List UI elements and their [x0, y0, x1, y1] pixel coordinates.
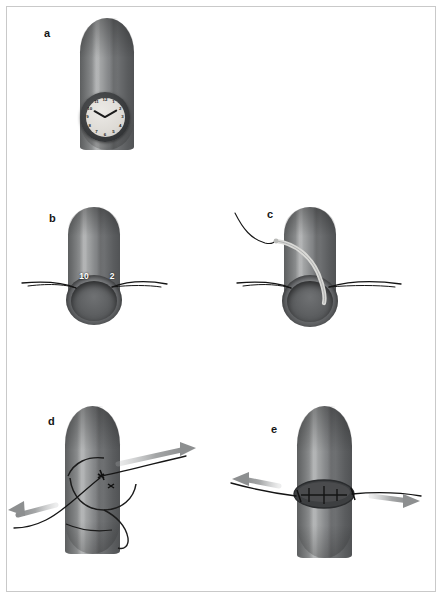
- panel-c: c: [221, 199, 442, 398]
- suture-thread: [235, 213, 275, 244]
- clock-numeral-1: 1: [112, 100, 114, 104]
- suture-loop-tail: [104, 510, 128, 549]
- arrow-right: [371, 494, 420, 508]
- needle-swage: [274, 239, 279, 244]
- clock-center-pin: [104, 116, 106, 118]
- clock-numeral-11: 11: [94, 100, 99, 104]
- figure-canvas: a 12 1 2 3 4 5 6 7 8 9 10 11: [0, 0, 442, 598]
- knot-lower: [108, 484, 114, 488]
- clock-numeral-5: 5: [112, 130, 114, 134]
- stay-suture-right-tail: [329, 286, 395, 288]
- position-marker-2: 2: [110, 271, 115, 281]
- stay-suture-right-tail: [112, 286, 161, 288]
- clock-numeral-7: 7: [95, 130, 97, 134]
- arrow-lower-left: [8, 501, 56, 516]
- arrow-upper-right: [118, 442, 196, 464]
- suture-loop-front: [70, 478, 136, 510]
- clock-numeral-3: 3: [121, 115, 123, 119]
- clock-numeral-10: 10: [87, 106, 92, 110]
- suture-loop-back: [68, 458, 104, 476]
- stay-suture-left: [237, 282, 291, 288]
- suture-strand-right: [352, 493, 421, 496]
- position-marker-10: 10: [79, 271, 88, 281]
- panel-e: e: [221, 398, 442, 598]
- panel-d: d: [0, 398, 221, 598]
- panel-b-sutures: [0, 199, 221, 398]
- suture-lower-pass: [66, 524, 112, 531]
- panel-b: b 10 2: [0, 199, 221, 398]
- panel-a-label: a: [44, 27, 50, 39]
- panel-e-overlay: [221, 398, 442, 598]
- clock-face: 12 1 2 3 4 5 6 7 8 9 10 11: [80, 92, 130, 142]
- arrow-left: [232, 472, 279, 486]
- clock-numeral-12: 12: [103, 97, 108, 101]
- panel-c-overlay: [221, 199, 442, 398]
- clock-numeral-4: 4: [119, 123, 121, 127]
- curved-needle-shading: [276, 241, 325, 303]
- clock-numeral-8: 8: [89, 123, 91, 127]
- panel-a: a 12 1 2 3 4 5 6 7 8 9 10 11: [0, 0, 221, 199]
- clock-numeral-9: 9: [86, 115, 88, 119]
- clock-numeral-2: 2: [119, 106, 121, 110]
- clock-numeral-6: 6: [104, 132, 106, 136]
- panel-d-overlay: [0, 398, 221, 598]
- stay-suture-left: [22, 282, 76, 288]
